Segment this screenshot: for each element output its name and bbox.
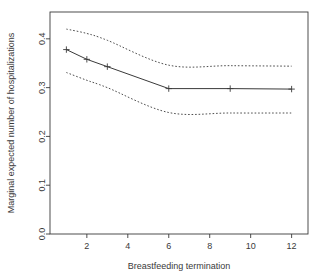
y-axis-title: Marginal expected number of hospitalizat… — [6, 32, 16, 213]
chart-figure: 0.00.10.20.30.4 24681012 Breastfeeding t… — [0, 0, 324, 278]
x-tick-label: 12 — [287, 241, 297, 251]
x-tick-label: 4 — [125, 241, 130, 251]
x-tick-label: 8 — [207, 241, 212, 251]
y-tick-label: 0.0 — [37, 228, 47, 241]
y-tick-label: 0.3 — [37, 81, 47, 94]
line-chart-plot: 0.00.10.20.30.4 24681012 Breastfeeding t… — [0, 0, 324, 278]
x-tick-label: 2 — [84, 241, 89, 251]
x-axis-ticks: 24681012 — [84, 234, 296, 251]
y-axis-ticks: 0.00.10.20.30.4 — [37, 33, 50, 241]
y-tick-label: 0.2 — [37, 130, 47, 143]
x-axis-title: Breastfeeding termination — [128, 261, 231, 271]
x-tick-label: 6 — [166, 241, 171, 251]
x-tick-label: 10 — [246, 241, 256, 251]
y-tick-label: 0.1 — [37, 179, 47, 192]
y-tick-label: 0.4 — [37, 33, 47, 46]
plot-panel — [50, 12, 308, 234]
